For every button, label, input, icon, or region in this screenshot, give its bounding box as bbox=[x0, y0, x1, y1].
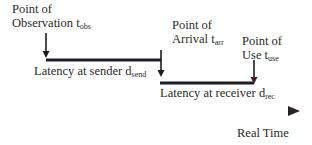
use-label-line1: Point of bbox=[242, 34, 282, 48]
real-time-axis bbox=[18, 106, 300, 116]
arrival-label: Point of Arrival tarr bbox=[172, 18, 224, 46]
sender-latency-label: Latency at sender dsend bbox=[34, 64, 146, 78]
observation-label: Point of Observation tobs bbox=[12, 2, 91, 30]
observation-label-line2: Observation tobs bbox=[12, 16, 91, 30]
arrival-label-line2: Arrival tarr bbox=[172, 32, 224, 46]
observation-label-line1: Point of bbox=[12, 2, 91, 16]
real-time-label: Real Time bbox=[237, 126, 289, 140]
observation-arrow-icon bbox=[43, 33, 50, 58]
arrival-arrow-icon bbox=[158, 50, 165, 77]
use-label-line2: Use tuse bbox=[242, 48, 282, 62]
arrival-label-line1: Point of bbox=[172, 18, 224, 32]
use-label: Point of Use tuse bbox=[242, 34, 282, 62]
receiver-latency-label: Latency at receiver drec bbox=[160, 86, 275, 100]
use-arrow-icon bbox=[251, 60, 258, 84]
